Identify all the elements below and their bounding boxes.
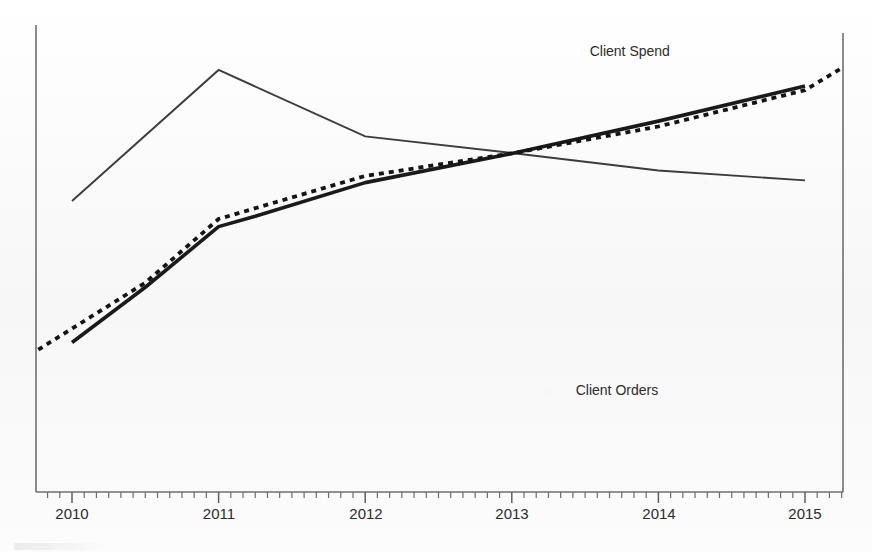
x-axis-tick-labels: 2010 2011 2012 2013 2014 2015 [55, 505, 821, 522]
x-tick-label-2011: 2011 [203, 505, 235, 522]
series-label-client-spend: Client Spend [590, 43, 670, 59]
series-line-client-orders [72, 70, 805, 201]
x-axis-minor-ticks [48, 492, 842, 498]
series-label-client-orders: Client Orders [576, 382, 658, 398]
series-line-trend-dotted [38, 67, 843, 349]
series-line-client-spend [72, 86, 805, 342]
x-tick-label-2010: 2010 [55, 505, 88, 522]
x-tick-label-2014: 2014 [642, 505, 675, 522]
x-tick-label-2012: 2012 [349, 505, 382, 522]
scanned-page-canvas: 2010 2011 2012 2013 2014 2015 Client Spe… [0, 0, 872, 552]
x-tick-label-2015: 2015 [788, 505, 821, 522]
x-tick-label-2013: 2013 [495, 505, 528, 522]
line-chart: 2010 2011 2012 2013 2014 2015 Client Spe… [0, 0, 872, 552]
